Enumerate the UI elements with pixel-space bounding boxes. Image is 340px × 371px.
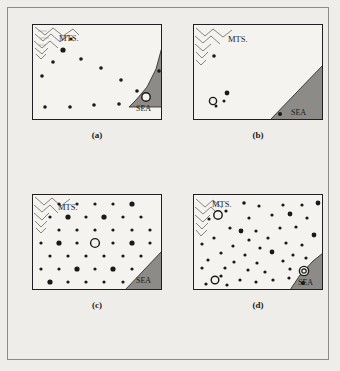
settlement-dot xyxy=(119,78,123,82)
settlement-dot xyxy=(206,258,209,261)
panel-a-rings xyxy=(142,93,150,101)
settlement-dot xyxy=(121,254,124,257)
settlement-dot xyxy=(316,201,321,206)
settlement-dot xyxy=(93,228,96,231)
mountains-icon-b xyxy=(195,28,232,65)
settlement-dot xyxy=(121,280,124,283)
panel-d-sea-label: SEA xyxy=(298,278,313,287)
settlement-dot xyxy=(207,217,210,220)
settlement-dot xyxy=(215,105,218,108)
panel-b-rings xyxy=(209,97,216,104)
settlement-dot xyxy=(68,105,72,109)
settlement-dot xyxy=(93,202,96,205)
settlement-dot xyxy=(270,250,275,255)
settlement-dot xyxy=(75,241,78,244)
panel-b-mts-label: MTS. xyxy=(228,34,248,44)
panel-a-map: MTS. SEA xyxy=(32,24,162,120)
panel-d-mts-label: MTS. xyxy=(212,199,232,209)
panel-c-mts-label: MTS. xyxy=(58,202,78,212)
settlement-dot xyxy=(74,266,79,271)
settlement-dot xyxy=(129,201,134,206)
panel-b-caption: (b) xyxy=(193,130,323,140)
panel-d-map: MTS. SEA xyxy=(193,194,323,290)
panel-b-sea-label: SEA xyxy=(291,108,306,117)
settlement-dot xyxy=(148,241,151,244)
center-ring-marker xyxy=(299,266,308,275)
settlement-dot xyxy=(232,260,235,263)
settlement-dot xyxy=(212,236,215,239)
settlement-dot xyxy=(111,228,114,231)
settlement-dot xyxy=(92,103,96,107)
settlement-dot xyxy=(47,279,52,284)
settlement-dot xyxy=(231,244,234,247)
settlement-dot xyxy=(39,267,42,270)
settlement-dot xyxy=(243,253,246,256)
settlement-dot xyxy=(39,241,42,244)
panel-b-map: MTS. SEA xyxy=(193,24,323,120)
settlement-dot xyxy=(43,105,47,109)
panel-c-caption: (c) xyxy=(32,300,162,310)
settlement-dot xyxy=(246,268,249,271)
settlement-dot xyxy=(312,233,317,238)
settlement-dot xyxy=(291,253,294,256)
settlement-dot xyxy=(84,215,87,218)
settlement-dot xyxy=(212,54,216,58)
settlement-dot xyxy=(157,69,161,73)
panel-d-caption: (d) xyxy=(193,300,323,310)
settlement-dot xyxy=(225,91,230,96)
settlement-dot xyxy=(228,226,231,229)
settlement-dot xyxy=(305,216,308,219)
settlement-dot xyxy=(121,215,124,218)
settlement-dot xyxy=(139,215,142,218)
settlement-dot xyxy=(254,280,257,283)
settlement-dot xyxy=(102,254,105,257)
settlement-dot xyxy=(51,60,55,64)
settlement-dot xyxy=(257,204,260,207)
settlement-dot xyxy=(79,57,83,61)
panel-d-graphics xyxy=(194,195,323,290)
settlement-dot xyxy=(130,267,133,270)
settlement-dot xyxy=(57,228,60,231)
settlement-dot xyxy=(56,240,61,245)
center-ring-marker xyxy=(91,239,100,248)
settlement-dot xyxy=(223,266,226,269)
settlement-dot xyxy=(84,254,87,257)
center-ring-marker xyxy=(209,97,216,104)
settlement-dot xyxy=(288,212,293,217)
settlement-dot xyxy=(75,228,78,231)
settlement-dot xyxy=(281,203,284,206)
settlement-dot xyxy=(139,254,142,257)
settlement-dot xyxy=(255,261,258,264)
settlement-dot xyxy=(219,251,222,254)
panel-c-sea-label: SEA xyxy=(136,276,151,285)
settlement-dot xyxy=(284,241,287,244)
settlement-dot xyxy=(66,280,69,283)
settlement-dot xyxy=(242,201,246,205)
settlement-dot xyxy=(224,209,227,212)
settlement-dot xyxy=(57,267,60,270)
settlement-dot xyxy=(278,112,282,116)
settlement-dot xyxy=(84,280,87,283)
settlement-dot xyxy=(204,282,207,285)
settlement-dot xyxy=(129,240,134,245)
settlement-dot xyxy=(254,229,257,232)
panel-d: MTS. SEA (d) xyxy=(193,194,323,324)
settlement-dot xyxy=(130,228,133,231)
settlement-dot xyxy=(111,241,114,244)
panel-a-caption: (a) xyxy=(32,130,162,140)
panel-a-mts-label: MTS. xyxy=(59,33,79,43)
settlement-dot xyxy=(258,246,261,249)
settlement-dot xyxy=(281,259,284,262)
settlement-dot xyxy=(48,215,51,218)
settlement-dot xyxy=(238,278,241,281)
settlement-dot xyxy=(93,267,96,270)
settlement-dot xyxy=(200,242,203,245)
settlement-dot xyxy=(247,238,250,241)
settlement-dot xyxy=(148,228,151,231)
panel-c-map: MTS. SEA xyxy=(32,194,162,290)
panel-b-graphics xyxy=(194,25,323,120)
settlement-dot xyxy=(266,236,269,239)
settlement-dot xyxy=(117,102,121,106)
settlement-dot xyxy=(225,283,228,286)
settlement-dot xyxy=(300,203,303,206)
